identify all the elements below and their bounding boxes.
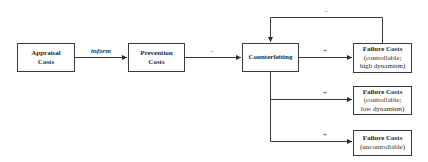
node-title: Failure Costs	[363, 88, 403, 97]
arrow-feedback-loop	[271, 18, 383, 44]
node-subtitle: low dynamism)	[361, 105, 405, 114]
node-label: Costs	[148, 58, 164, 67]
edge-label-plus: +	[318, 47, 332, 55]
node-label: Counterfeiting	[249, 53, 293, 62]
edge-label-plus: +	[318, 89, 332, 97]
node-appraisal-costs: Appraisal Costs	[17, 43, 75, 72]
edge-label-plus: +	[318, 131, 332, 139]
node-label: Appraisal	[31, 49, 61, 58]
node-failure-costs-low-dynamism: Failure Costs (controllable; low dynamis…	[353, 86, 412, 115]
edge-label-minus: –	[204, 47, 220, 55]
node-subtitle: (uncontrollable)	[360, 143, 405, 152]
node-counterfeiting: Counterfeiting	[242, 43, 299, 72]
node-failure-costs-uncontrollable: Failure Costs (uncontrollable)	[353, 130, 412, 156]
node-failure-costs-high-dynamism: Failure Costs (controllable; high dynami…	[353, 43, 412, 73]
node-title: Failure Costs	[363, 45, 403, 54]
edge-label-inform: inform	[84, 47, 118, 55]
node-label: Prevention	[140, 49, 173, 58]
edge-label-feedback-minus: –	[318, 7, 334, 15]
node-title: Failure Costs	[363, 134, 403, 143]
node-prevention-costs: Prevention Costs	[128, 43, 185, 72]
node-label: Costs	[38, 58, 54, 67]
node-subtitle: (controllable;	[364, 96, 402, 105]
node-subtitle: high dynamism)	[360, 62, 406, 71]
node-subtitle: (controllable;	[364, 54, 402, 63]
